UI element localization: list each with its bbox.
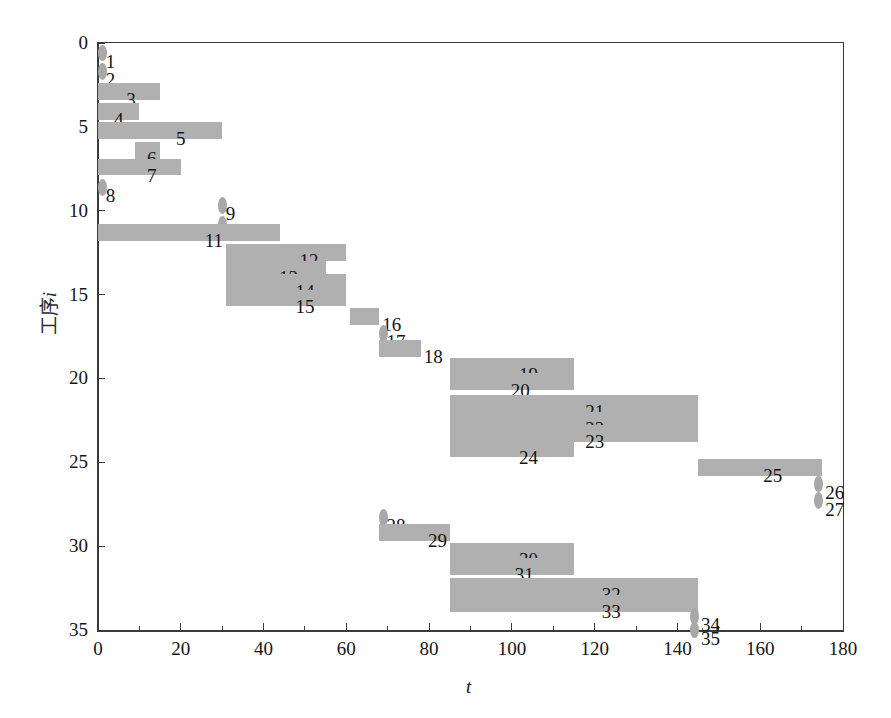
gantt-bar[interactable] bbox=[98, 122, 222, 139]
y-tick-label: 30 bbox=[42, 535, 88, 557]
x-tick-minor bbox=[222, 626, 223, 630]
y-tick bbox=[98, 294, 105, 295]
gantt-bar[interactable] bbox=[690, 622, 699, 639]
y-tick-label: 20 bbox=[42, 367, 88, 389]
axis-bottom bbox=[97, 630, 844, 632]
y-tick-label: 25 bbox=[42, 451, 88, 473]
x-tick-label: 180 bbox=[829, 638, 858, 660]
x-tick-minor bbox=[304, 626, 305, 630]
gantt-bar[interactable] bbox=[450, 440, 574, 457]
y-tick-label: 5 bbox=[42, 116, 88, 138]
x-tick bbox=[511, 623, 512, 630]
gantt-bar[interactable] bbox=[98, 103, 139, 120]
gantt-bar[interactable] bbox=[98, 224, 280, 241]
x-axis-title: t bbox=[466, 676, 471, 698]
gantt-bar[interactable] bbox=[135, 142, 160, 159]
x-tick bbox=[677, 623, 678, 630]
y-axis-title-italic: i bbox=[39, 292, 60, 297]
x-tick-label: 160 bbox=[746, 638, 775, 660]
x-tick-label: 20 bbox=[171, 638, 190, 660]
x-tick bbox=[760, 623, 761, 630]
gantt-bar[interactable] bbox=[698, 459, 822, 476]
y-axis-title: 工序i bbox=[34, 269, 61, 359]
y-tick bbox=[98, 43, 105, 44]
gantt-bar[interactable] bbox=[98, 159, 181, 176]
x-tick bbox=[180, 623, 181, 630]
y-tick-label: 0 bbox=[42, 32, 88, 54]
gantt-bar[interactable] bbox=[450, 595, 698, 612]
gantt-chart: 02040608010012014016018005101520253035 1… bbox=[0, 0, 891, 718]
x-tick-minor bbox=[139, 626, 140, 630]
x-tick-label: 140 bbox=[663, 638, 692, 660]
y-tick-label: 10 bbox=[42, 200, 88, 222]
axis-top bbox=[97, 42, 844, 43]
y-axis-title-cjk: 工序 bbox=[39, 297, 60, 335]
y-tick-label: 35 bbox=[42, 619, 88, 641]
gantt-bar[interactable] bbox=[98, 63, 107, 80]
x-tick bbox=[346, 623, 347, 630]
x-tick-minor bbox=[553, 626, 554, 630]
gantt-bar[interactable] bbox=[226, 290, 346, 307]
y-tick bbox=[98, 378, 105, 379]
x-tick bbox=[843, 623, 844, 630]
x-tick-minor bbox=[636, 626, 637, 630]
x-tick bbox=[263, 623, 264, 630]
axis-right bbox=[843, 42, 844, 631]
y-tick bbox=[98, 462, 105, 463]
x-tick-minor bbox=[470, 626, 471, 630]
x-tick-label: 0 bbox=[93, 638, 103, 660]
x-tick bbox=[594, 623, 595, 630]
x-tick-minor bbox=[801, 626, 802, 630]
gantt-bar[interactable] bbox=[218, 197, 227, 214]
gantt-bar[interactable] bbox=[379, 524, 449, 541]
gantt-bar[interactable] bbox=[450, 578, 698, 595]
gantt-bar[interactable] bbox=[350, 308, 379, 325]
x-tick bbox=[429, 623, 430, 630]
x-tick-label: 60 bbox=[337, 638, 356, 660]
gantt-bar[interactable] bbox=[98, 179, 107, 196]
x-tick-minor bbox=[718, 626, 719, 630]
y-tick bbox=[98, 630, 105, 631]
x-tick-label: 120 bbox=[580, 638, 609, 660]
gantt-bar[interactable] bbox=[379, 340, 420, 357]
y-tick bbox=[98, 210, 105, 211]
x-tick-label: 100 bbox=[498, 638, 527, 660]
gantt-bar[interactable] bbox=[450, 395, 698, 412]
y-tick bbox=[98, 546, 105, 547]
x-tick-label: 80 bbox=[420, 638, 439, 660]
gantt-bar[interactable] bbox=[450, 558, 574, 575]
gantt-bar[interactable] bbox=[226, 244, 346, 261]
x-tick-label: 40 bbox=[254, 638, 273, 660]
gantt-bar[interactable] bbox=[98, 83, 160, 100]
x-tick-minor bbox=[387, 626, 388, 630]
gantt-bar[interactable] bbox=[450, 373, 574, 390]
